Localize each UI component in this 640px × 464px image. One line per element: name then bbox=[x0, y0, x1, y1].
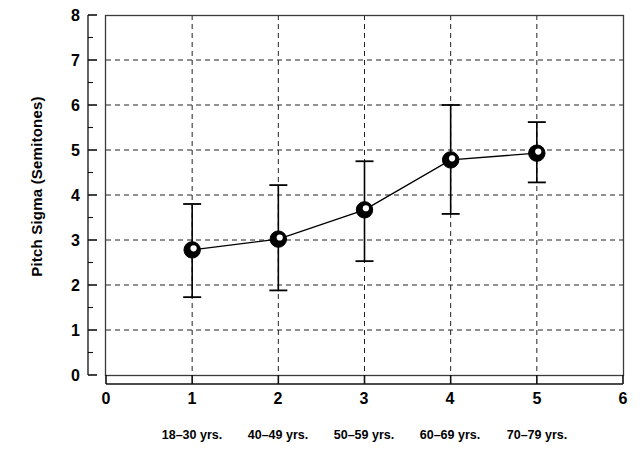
chart-figure: Pitch Sigma (Semitones) 8 7 6 5 4 3 2 1 … bbox=[0, 0, 640, 464]
plot-canvas bbox=[0, 0, 640, 464]
y-axis-spine bbox=[88, 15, 97, 375]
x-axis-spine bbox=[106, 375, 623, 384]
